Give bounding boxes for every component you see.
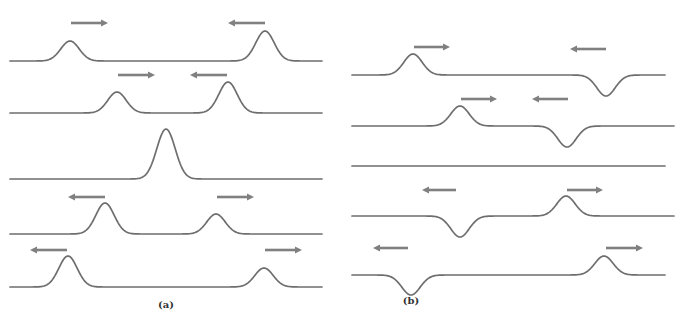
arrow-right-icon <box>265 247 302 254</box>
wave-string-a-1 <box>10 31 322 61</box>
wave-string-a-5 <box>10 256 322 287</box>
arrow-right-icon <box>606 245 643 252</box>
arrow-left-icon <box>570 46 606 53</box>
arrow-left-icon <box>532 96 568 103</box>
arrow-right-icon <box>567 187 603 194</box>
wave-string-a-2 <box>10 82 322 113</box>
arrow-right-icon <box>217 194 254 201</box>
wave-string-b-5 <box>352 256 665 295</box>
panel-b-label: (b) <box>403 295 419 306</box>
wave-string-b-4 <box>352 196 674 237</box>
panel-b <box>352 44 674 296</box>
arrow-left-icon <box>30 247 67 254</box>
panel-a-label: (a) <box>158 299 174 310</box>
panel-a <box>10 20 322 288</box>
wave-string-a-4 <box>10 203 322 234</box>
arrow-left-icon <box>373 245 408 252</box>
wave-string-b-2 <box>352 106 674 147</box>
wave-superposition-diagram <box>0 0 683 316</box>
wave-string-b-1 <box>352 54 665 96</box>
arrow-right-icon <box>414 44 450 51</box>
arrow-left-icon <box>228 20 265 27</box>
arrow-left-icon <box>422 187 456 194</box>
arrow-right-icon <box>461 96 497 103</box>
arrow-right-icon <box>118 72 155 79</box>
arrow-left-icon <box>68 194 105 201</box>
wave-string-a-3 <box>10 129 322 179</box>
arrow-right-icon <box>71 20 108 27</box>
arrow-left-icon <box>190 72 227 79</box>
